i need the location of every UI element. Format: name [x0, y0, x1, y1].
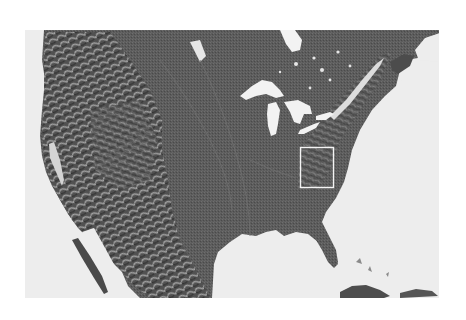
map-canvas: [25, 30, 439, 298]
relief-map: [25, 30, 439, 298]
